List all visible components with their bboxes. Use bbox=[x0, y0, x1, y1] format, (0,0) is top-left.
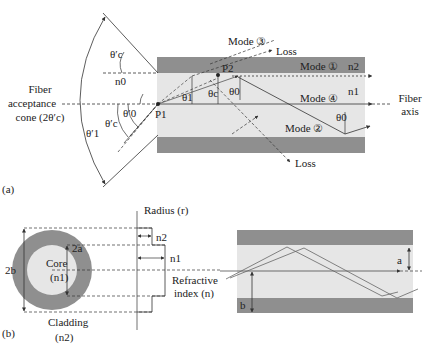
theta-1-prime: θ′1 bbox=[86, 127, 99, 139]
core-b bbox=[237, 245, 413, 298]
point-p2 bbox=[216, 73, 220, 77]
index-axis-label-2: index (n) bbox=[174, 287, 214, 300]
acceptance-label-1: Fiber bbox=[28, 83, 52, 95]
cladding-label: Cladding bbox=[48, 316, 89, 328]
core-label: Core bbox=[46, 257, 68, 269]
diameter-2b-label: 2b bbox=[5, 264, 17, 276]
radius-b-label: b bbox=[240, 299, 246, 311]
bottom-cladding bbox=[157, 137, 365, 153]
index-axis-label-1: Refractive bbox=[172, 274, 218, 286]
mode3-label: Mode ③ bbox=[228, 35, 266, 47]
theta-1: θ1 bbox=[182, 91, 193, 103]
mode2-label: Mode ② bbox=[285, 122, 323, 134]
n0-label: n0 bbox=[115, 75, 127, 87]
n1-label-a: n1 bbox=[348, 85, 359, 97]
diameter-2a-label: 2a bbox=[72, 242, 83, 254]
loss-bottom-label: Loss bbox=[295, 157, 316, 169]
core-index-label: (n1) bbox=[50, 271, 69, 284]
point-p1 bbox=[156, 102, 160, 106]
fiber-axis-label-2: axis bbox=[401, 105, 419, 117]
fiber-axis-label-1: Fiber bbox=[398, 92, 422, 104]
acceptance-label-2: acceptance bbox=[8, 97, 56, 109]
acceptance-label-3: cone (2θ′c) bbox=[16, 111, 65, 124]
panel-b: Radius (r) n2 n1 Refractive index (n) 2b… bbox=[2, 204, 422, 344]
theta-c-prime-top: θ′c bbox=[110, 48, 123, 60]
panel-a: θ′c n0 Fiber acceptance cone (2θ′c) θ′0 … bbox=[2, 13, 422, 196]
theta-0-top: θ0 bbox=[229, 85, 240, 97]
radius-axis-label: Radius (r) bbox=[144, 204, 189, 217]
acceptance-cone-arc bbox=[80, 17, 105, 184]
theta-0-bottom: θ0 bbox=[336, 111, 347, 123]
loss-top-label: Loss bbox=[276, 45, 297, 57]
n1-label-b: n1 bbox=[170, 252, 181, 264]
cone-boundary-top bbox=[103, 13, 158, 73]
panel-b-label: (b) bbox=[2, 327, 15, 340]
bottom-cladding-b bbox=[237, 298, 413, 313]
mode1-label: Mode ① bbox=[300, 60, 338, 72]
radius-a-label: a bbox=[397, 254, 402, 266]
theta-c-prime-bottom: θ′c bbox=[105, 117, 118, 129]
mode4-label: Mode ④ bbox=[300, 92, 338, 104]
fiber-optics-diagram: θ′c n0 Fiber acceptance cone (2θ′c) θ′0 … bbox=[0, 0, 428, 350]
top-cladding-b bbox=[237, 230, 413, 245]
theta-c: θc bbox=[208, 87, 218, 99]
panel-a-label: (a) bbox=[2, 183, 15, 196]
n2-label-a: n2 bbox=[348, 60, 359, 72]
core bbox=[157, 73, 365, 137]
cone-boundary-bottom bbox=[103, 135, 158, 187]
n2-label-b: n2 bbox=[156, 231, 167, 243]
theta-0-prime: θ′0 bbox=[123, 107, 137, 119]
p1-label: P1 bbox=[155, 108, 167, 120]
cladding-index-label: (n2) bbox=[55, 331, 74, 344]
p2-label: P2 bbox=[222, 62, 234, 74]
